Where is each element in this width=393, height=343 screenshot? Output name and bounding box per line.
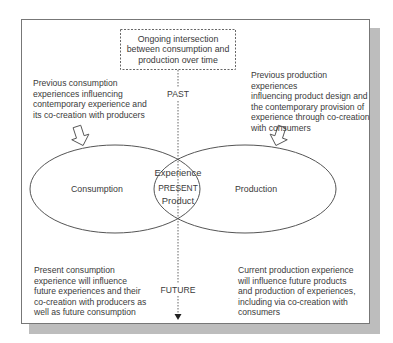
annotation-bottom-left: Present consumption experience will infl… (34, 265, 164, 318)
annotation-line: will influence future products (238, 276, 368, 287)
annotation-line: its co-creation with producers (33, 110, 163, 121)
production-label: Production (235, 184, 277, 195)
annotation-line: influencing product design and (251, 91, 371, 102)
present-label: PRESENT (145, 183, 211, 194)
annotation-line: Previous production experiences (251, 70, 371, 91)
consumption-label: Consumption (71, 184, 123, 195)
annotation-top-left: Previous consumption experiences influen… (33, 78, 163, 120)
annotation-line: with consumers (251, 123, 371, 134)
title-line-2: between consumption and (127, 44, 230, 55)
product-label: Product (145, 196, 211, 207)
annotation-line: Current production experience (238, 265, 368, 276)
annotation-line: consumers (238, 307, 368, 318)
annotation-line: Present consumption (34, 265, 164, 276)
annotation-line: experience through co-creation (251, 112, 371, 123)
annotation-line: well as future consumption (34, 307, 164, 318)
title-line-1: Ongoing intersection (127, 34, 230, 45)
annotation-line: Previous consumption (33, 78, 163, 89)
annotation-bottom-right: Current production experience will influ… (238, 265, 368, 318)
left-down-arrow-icon (68, 124, 91, 149)
annotation-line: co-creation with producers as (34, 297, 164, 308)
title-line-3: production over time (127, 55, 230, 66)
annotation-line: including via co-creation with (238, 297, 368, 308)
future-label: FUTURE (156, 285, 200, 296)
annotation-line: experiences influencing (33, 89, 163, 100)
experience-label: Experience (145, 168, 211, 179)
title-box: Ongoing intersection between consumption… (120, 29, 236, 70)
annotation-line: and production of experiences, (238, 286, 368, 297)
annotation-line: experience will influence (34, 276, 164, 287)
past-label: PAST (160, 89, 196, 100)
timeline-arrowhead-icon (175, 314, 182, 320)
annotation-top-right: Previous production experiences influenc… (251, 70, 371, 134)
annotation-line: the contemporary provision of (251, 102, 371, 113)
annotation-line: contemporary experience and (33, 99, 163, 110)
annotation-line: future experiences and their (34, 286, 164, 297)
